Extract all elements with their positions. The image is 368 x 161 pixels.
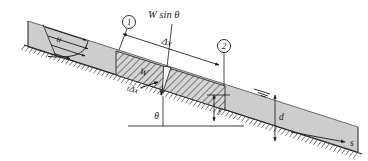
section-marker-2: 2 bbox=[218, 40, 231, 87]
section-1-label: 1 bbox=[127, 17, 131, 27]
shear-force-label: τΔx bbox=[125, 82, 139, 95]
angle-theta-label: θ bbox=[154, 111, 159, 121]
section-marker-1: 1 bbox=[119, 16, 136, 51]
depth-d-label: d bbox=[279, 112, 284, 122]
channel-bed bbox=[22, 45, 363, 158]
figure-root: u 1 2 Δx W sin θ bbox=[0, 0, 368, 161]
control-volume bbox=[116, 51, 225, 110]
open-channel-flow-diagram: u 1 2 Δx W sin θ bbox=[0, 0, 368, 161]
section-1-leader bbox=[119, 29, 127, 50]
bed-hatch-upper bbox=[22, 45, 358, 158]
s-axis-label: s bbox=[350, 138, 354, 148]
w-sin-theta-label: W sin θ bbox=[148, 9, 179, 20]
depth-y-label: y bbox=[217, 105, 223, 115]
control-volume-region bbox=[116, 51, 225, 110]
